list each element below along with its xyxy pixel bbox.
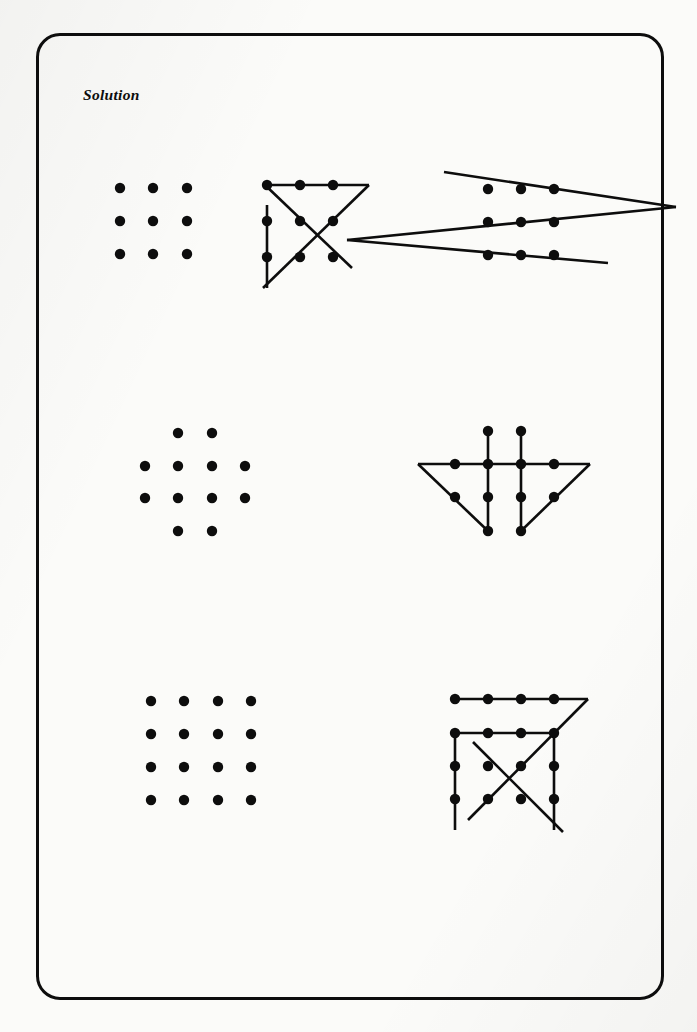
page-border-frame [36,33,664,1000]
solution-page: Solution [0,0,697,1032]
page-title: Solution [83,86,140,104]
